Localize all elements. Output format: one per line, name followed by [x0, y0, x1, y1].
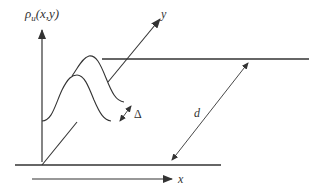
plate-diagram: ρu(x,y) y x Δ d — [0, 0, 323, 192]
density-curve-back — [72, 56, 124, 102]
y-axis-label: y — [160, 7, 167, 21]
distance-label: d — [194, 106, 201, 120]
y-axis-upper-segment — [108, 19, 160, 82]
density-curve-front — [42, 75, 111, 121]
delta-arrow — [120, 106, 131, 121]
y-axis-lower-segment — [42, 122, 77, 165]
distance-arrow — [172, 63, 248, 160]
delta-label: Δ — [134, 107, 142, 121]
x-axis-label: x — [177, 172, 184, 186]
rho-label: ρu(x,y) — [24, 6, 59, 23]
density-curves — [42, 56, 124, 121]
